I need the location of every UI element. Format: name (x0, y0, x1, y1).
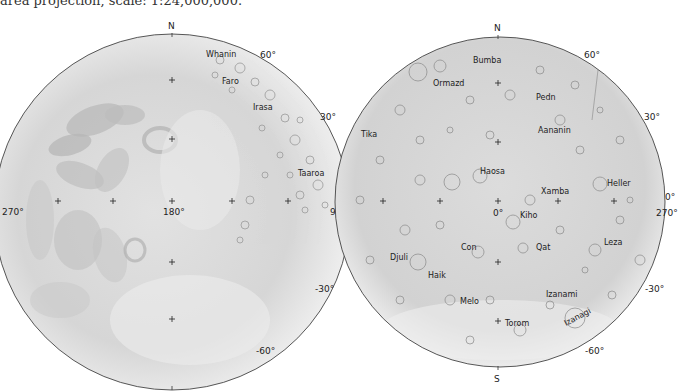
lon-label-270-left: 270° (2, 207, 24, 217)
feature-ormazd: Ormazd (433, 79, 464, 88)
right-hemisphere: N S 0° 0° 270° 60° 30° -30° -60° Bumba O… (335, 23, 678, 384)
feature-xamba: Xamba (541, 187, 569, 196)
feature-haosa: Haosa (480, 167, 505, 176)
lat-label-neg30-left: -30° (315, 284, 334, 294)
lon-label-0-center: 0° (493, 208, 503, 218)
feature-bumba: Bumba (473, 56, 501, 65)
feature-irasa: Irasa (253, 103, 273, 112)
feature-torom: Torom (504, 319, 529, 328)
feature-melo: Melo (460, 297, 479, 306)
lon-label-270-right: 270° (656, 208, 678, 218)
feature-izanami: Izanami (546, 290, 577, 299)
hemisphere-maps: N 270° 180° 90° 60° 30° -30° -60° Whanin… (0, 0, 684, 392)
lat-label-60-right: 60° (584, 50, 600, 60)
feature-aananin: Aananin (538, 126, 571, 135)
feature-kiho: Kiho (520, 211, 538, 220)
lon-label-0-right: 0° (665, 192, 675, 202)
feature-pedn: Pedn (536, 93, 556, 102)
lat-label-30-left: 30° (320, 112, 336, 122)
feature-heller: Heller (607, 179, 631, 188)
feature-tika: Tika (360, 130, 377, 139)
lat-label-neg60-left: -60° (256, 346, 275, 356)
left-hemisphere: N 270° 180° 90° 60° 30° -30° -60° Whanin… (0, 21, 350, 390)
feature-djuli: Djuli (390, 253, 408, 262)
north-label-right: N (494, 23, 501, 33)
lat-label-neg30-right: -30° (645, 284, 664, 294)
feature-whanin: Whanin (206, 50, 236, 59)
lon-label-180: 180° (163, 207, 185, 217)
lat-label-30-right: 30° (644, 112, 660, 122)
north-label-left: N (168, 21, 175, 31)
feature-qat: Qat (536, 243, 550, 252)
feature-haik: Haik (428, 271, 446, 280)
lat-label-neg60-right: -60° (585, 346, 604, 356)
south-label-right: S (494, 374, 500, 384)
lat-label-60-left: 60° (260, 50, 276, 60)
feature-taaroa: Taaroa (297, 169, 324, 178)
feature-con: Con (461, 243, 477, 252)
feature-faro: Faro (222, 77, 239, 86)
feature-leza: Leza (604, 238, 622, 247)
